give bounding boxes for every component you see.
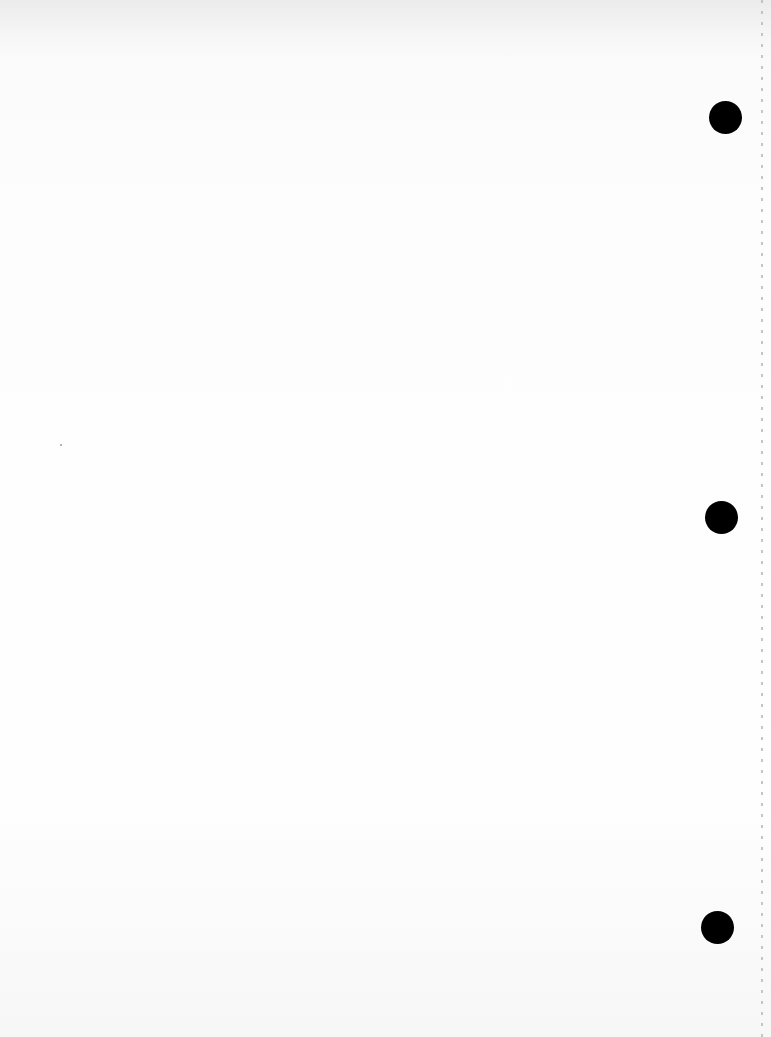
- blank-paper-sheet: [0, 0, 771, 1037]
- punch-hole-top: [709, 101, 742, 134]
- perforation-line: [761, 0, 763, 1037]
- dust-speck: [60, 444, 62, 446]
- punch-hole-bottom: [701, 911, 734, 944]
- punch-hole-middle: [705, 501, 738, 534]
- scan-shadow: [0, 0, 771, 60]
